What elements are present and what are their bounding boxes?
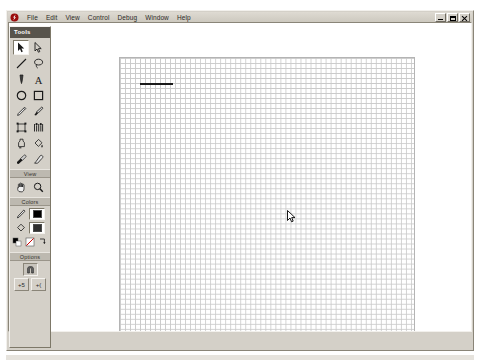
tools-panel-title[interactable]: Tools: [10, 27, 50, 38]
color-modifier-row: [13, 236, 47, 247]
pencil-stroke-icon: [15, 209, 26, 220]
svg-text:A: A: [35, 75, 43, 86]
application-window: File Edit View Control Debug Window Help: [0, 0, 480, 364]
options-row-magnet: [23, 263, 38, 276]
view-section-label: View: [10, 169, 50, 178]
no-color-button[interactable]: [25, 236, 35, 247]
paint-bucket-tool[interactable]: [31, 136, 47, 151]
minimize-button[interactable]: [435, 13, 446, 22]
stroke-color-row: [13, 208, 47, 220]
pencil-tool[interactable]: [13, 104, 29, 119]
fill-color-chip: [33, 224, 42, 232]
line-icon: [16, 58, 27, 69]
desktop-bottom-strip: [6, 355, 474, 360]
oval-tool[interactable]: [13, 88, 29, 103]
line-tool[interactable]: [13, 56, 29, 71]
lasso-icon: [33, 58, 44, 69]
oval-icon: [16, 90, 27, 101]
fill-transform-tool[interactable]: [31, 120, 47, 135]
close-button[interactable]: [459, 13, 470, 22]
arrow-tool[interactable]: [13, 40, 29, 55]
options-section-label: Options: [10, 252, 50, 261]
stroke-color-chip: [33, 210, 42, 218]
fill-color-row: [13, 222, 47, 234]
pen-tool[interactable]: [13, 72, 29, 87]
document-client-area[interactable]: [8, 22, 472, 332]
hand-tool[interactable]: [13, 180, 29, 195]
options-row-curve: +5 +(: [14, 278, 46, 291]
smooth-option[interactable]: +5: [14, 278, 29, 291]
mdi-document-window: File Edit View Control Debug Window Help: [6, 10, 474, 351]
hand-icon: [16, 182, 27, 193]
arrow-icon: [17, 42, 26, 53]
window-controls: [435, 13, 470, 22]
free-transform-tool[interactable]: [13, 120, 29, 135]
brush-icon: [33, 106, 44, 117]
arrow-cursor: [287, 209, 296, 222]
lasso-tool[interactable]: [31, 56, 47, 71]
fill-transform-icon: [33, 122, 44, 133]
pencil-icon: [16, 106, 27, 117]
magnifier-icon: [33, 182, 44, 193]
paint-bucket-icon: [33, 138, 44, 149]
eyedropper-icon: [16, 154, 27, 165]
straighten-option[interactable]: +(: [31, 278, 46, 291]
snap-to-objects-option[interactable]: [23, 263, 38, 276]
drawing-stage[interactable]: [119, 57, 415, 332]
fill-color[interactable]: [29, 222, 45, 234]
brush-tool[interactable]: [31, 104, 47, 119]
text-a-icon: A: [33, 74, 44, 85]
tools-grid: A: [10, 38, 50, 169]
options-controls: +5 +(: [10, 261, 50, 293]
black-and-white-button[interactable]: [12, 236, 22, 247]
ink-bottle-tool[interactable]: [13, 136, 29, 151]
rectangle-tool[interactable]: [31, 88, 47, 103]
pen-icon: [16, 74, 27, 85]
eyedropper-tool[interactable]: [13, 152, 29, 167]
eraser-icon: [33, 154, 44, 165]
colors-section-label: Colors: [10, 197, 50, 206]
view-tools-grid: [10, 178, 50, 197]
rectangle-icon: [33, 90, 44, 101]
swap-colors-button[interactable]: [38, 236, 48, 247]
stage-container: [119, 57, 415, 332]
drawn-line-shape[interactable]: [140, 83, 173, 85]
colors-controls: [10, 206, 50, 252]
stroke-color[interactable]: [29, 208, 45, 220]
zoom-tool[interactable]: [31, 180, 47, 195]
restore-button[interactable]: [447, 13, 458, 22]
status-bar: [8, 333, 472, 349]
free-transform-icon: [16, 122, 27, 133]
text-tool[interactable]: A: [31, 72, 47, 87]
flash-app-icon: [10, 13, 19, 22]
eraser-tool[interactable]: [31, 152, 47, 167]
tools-panel: Tools: [9, 26, 51, 348]
subselect-tool[interactable]: [31, 40, 47, 55]
subselect-arrow-icon: [34, 42, 43, 53]
ink-bottle-icon: [16, 138, 27, 149]
paint-bucket-fill-icon: [15, 223, 26, 234]
